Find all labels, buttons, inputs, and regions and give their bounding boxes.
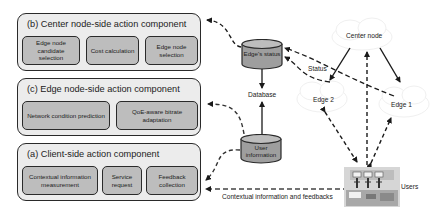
cost-calculation: Cost calculation: [86, 36, 139, 65]
edge-status-database: Edge's status: [241, 39, 283, 70]
panel-title: (b) Center node-side action component: [27, 19, 186, 29]
status-edge-label: Status: [308, 65, 327, 72]
panel-title: (a) Client-side action component: [27, 149, 159, 159]
service-request: Service request: [102, 166, 142, 195]
user-information-label: User information: [240, 144, 282, 159]
database-label: Database: [248, 91, 276, 98]
center-node-label: Center node: [346, 32, 382, 39]
client-side-component: (a) Client-side action component Context…: [17, 143, 201, 201]
center-node-side-component: (b) Center node-side action component Ed…: [17, 13, 201, 71]
edge2-label: Edge 2: [313, 96, 334, 103]
edge-node-side-component: (c) Edge node-side action component Netw…: [17, 78, 201, 136]
contextual-information-measurement: Contextual information measurement: [22, 166, 98, 195]
edge1-label: Edge 1: [391, 101, 412, 108]
user-information-database: User information: [240, 134, 282, 164]
users-label: Users: [401, 183, 418, 190]
edge-node-selection: Edge node selection: [145, 36, 198, 65]
network-condition-prediction: Network condition prediction: [22, 101, 110, 130]
contextual-feedback-edge-label: Contextual information and feedbacks: [222, 193, 333, 200]
users-picture: [344, 167, 400, 207]
panel-title: (c) Edge node-side action component: [27, 84, 180, 94]
qoe-aware-bitrate-adaptation: QoE-aware bitrate adaptation: [116, 101, 198, 130]
feedback-collection: Feedback collection: [146, 166, 198, 195]
edge-node-candidate-selection: Edge node candidate selection: [22, 36, 80, 65]
edge-status-label: Edge's status: [241, 50, 283, 57]
